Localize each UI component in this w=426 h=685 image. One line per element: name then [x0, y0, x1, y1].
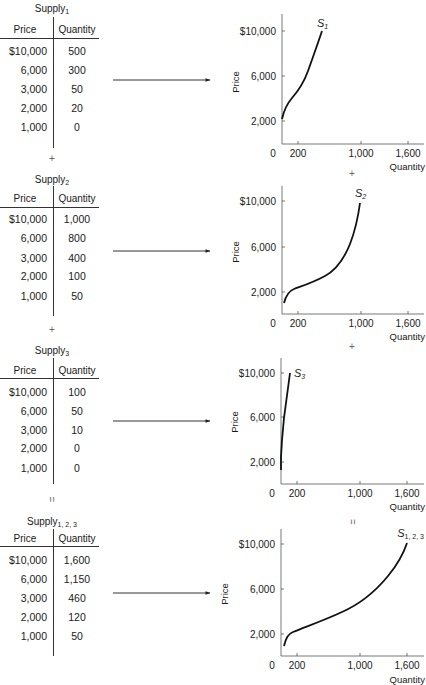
y-tick-label: 6,000 [251, 71, 276, 82]
x-axis-label: Quantity [390, 501, 426, 512]
supply-chart-1: $10,000 6,000 2,000 0 200 1,000 1,600 Qu… [230, 14, 425, 179]
x-tick-label: 0 [269, 488, 275, 499]
y-tick-label: $10,000 [240, 196, 277, 207]
plus-operator: + [349, 168, 355, 179]
supply-curve [284, 543, 407, 646]
y-tick-label: 6,000 [251, 242, 276, 253]
x-tick-label: 1,600 [394, 660, 419, 671]
x-tick-label: 200 [290, 148, 307, 159]
y-tick-label: 2,000 [251, 116, 276, 127]
x-tick-label: 200 [289, 488, 306, 499]
supply-curve [284, 203, 360, 303]
x-axis-label: Quantity [390, 674, 426, 685]
curve-label: S1 [317, 17, 328, 30]
x-tick-label: 1,600 [395, 318, 420, 329]
y-axis-label: Price [229, 411, 240, 433]
charts-canvas: $10,000 6,000 2,000 0 200 1,000 1,600 Qu… [0, 0, 426, 685]
supply-curve [282, 31, 322, 119]
x-tick-label: 1,600 [395, 148, 420, 159]
supply-chart-total: $10,000 6,000 2,000 0 200 1,000 1,600 Qu… [219, 527, 425, 685]
plus-operator: + [349, 341, 355, 352]
y-tick-label: 2,000 [250, 457, 275, 468]
y-tick-label: $10,000 [239, 539, 276, 550]
x-tick-label: 0 [270, 148, 276, 159]
y-axis-label: Price [230, 241, 241, 263]
supply-curve [281, 373, 290, 470]
y-tick-label: $10,000 [240, 26, 277, 37]
curve-label: S1, 2, 3 [397, 527, 424, 540]
supply-chart-2: $10,000 6,000 2,000 0 200 1,000 1,600 Qu… [230, 186, 425, 352]
y-tick-label: 2,000 [251, 287, 276, 298]
x-tick-label: 0 [269, 660, 275, 671]
equals-operator: = [347, 519, 358, 525]
curve-label: S2 [355, 187, 366, 200]
x-tick-label: 200 [290, 318, 307, 329]
supply-chart-3: $10,000 6,000 2,000 0 200 1,000 1,600 Qu… [229, 358, 425, 525]
y-axis-label: Price [219, 583, 230, 605]
curve-label: S3 [294, 367, 305, 380]
x-tick-label: 1,000 [348, 318, 373, 329]
y-axis-label: Price [230, 71, 241, 93]
x-axis-label: Quantity [390, 331, 426, 342]
x-axis-label: Quantity [390, 161, 426, 172]
x-tick-label: 0 [270, 318, 276, 329]
y-tick-label: 6,000 [250, 584, 275, 595]
y-tick-label: 6,000 [250, 412, 275, 423]
x-tick-label: 200 [289, 660, 306, 671]
y-tick-label: 2,000 [250, 629, 275, 640]
y-tick-label: $10,000 [239, 368, 276, 379]
x-tick-label: 1,600 [394, 488, 419, 499]
x-tick-label: 1,000 [348, 148, 373, 159]
x-tick-label: 1,000 [347, 660, 372, 671]
x-tick-label: 1,000 [347, 488, 372, 499]
